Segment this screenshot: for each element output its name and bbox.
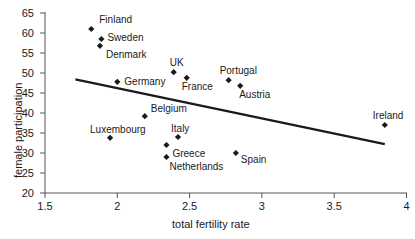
data-point-marker [163,142,169,148]
y-axis-title: female participation [13,83,24,178]
x-axis-ticks [45,193,407,198]
data-point-label: Luxembourg [90,125,146,135]
data-point-marker [171,69,177,75]
data-markers [88,26,388,160]
data-point-marker [98,36,104,42]
data-point-marker [237,83,243,89]
plot-area [0,0,415,239]
x-tick-label: 3 [247,201,277,212]
y-tick-label: 50 [16,68,34,79]
data-point-marker [97,43,103,49]
data-point-label: Spain [241,155,267,165]
y-tick-label: 65 [16,8,34,19]
data-point-label: Finland [99,15,132,25]
x-axis-title: total fertility rate [172,219,250,230]
data-point-label: Germany [124,77,165,87]
data-point-label: Austria [239,90,270,100]
x-tick-label: 2.5 [175,201,205,212]
scatter-chart: 20253035404550556065 1.522.533.54 Finlan… [0,0,415,239]
data-point-marker [107,135,113,141]
x-tick-label: 3.5 [319,201,349,212]
data-point-label: France [182,82,213,92]
data-point-marker [382,122,388,128]
data-point-marker [233,150,239,156]
y-axis-ticks [40,13,45,193]
y-tick-label: 55 [16,48,34,59]
data-point-marker [184,75,190,81]
data-point-label: Greece [172,149,205,159]
data-point-label: Denmark [106,50,147,60]
x-tick-label: 1.5 [30,201,60,212]
data-point-label: Ireland [373,111,404,121]
y-tick-label: 20 [16,188,34,199]
data-point-label: Portugal [220,66,257,76]
data-point-label: Italy [171,124,189,134]
data-point-marker [163,154,169,160]
data-point-label: UK [170,58,184,68]
data-point-marker [142,113,148,119]
y-tick-label: 60 [16,28,34,39]
data-point-marker [114,79,120,85]
data-point-label: Belgium [151,104,187,114]
data-point-marker [88,26,94,32]
data-point-label: Netherlands [169,162,223,172]
data-point-marker [175,134,181,140]
x-tick-label: 2 [102,201,132,212]
x-tick-label: 4 [392,201,415,212]
data-point-label: Sweden [107,33,143,43]
data-point-marker [226,77,232,83]
